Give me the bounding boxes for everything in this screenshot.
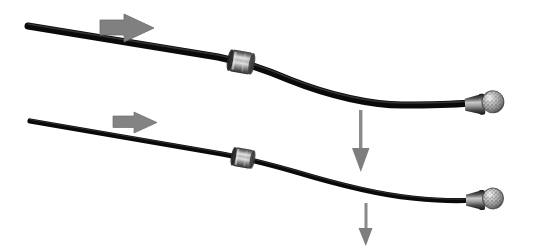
upper-bulb-tip: [465, 90, 505, 115]
lower-advance-arrow: [113, 112, 157, 133]
upper-device: [28, 14, 504, 172]
upper-sleeve-bead: [225, 49, 256, 76]
device-illustration: [0, 0, 536, 248]
figure-canvas: Schematic photograph showing two cathete…: [0, 0, 536, 248]
lower-sleeve-bead: [229, 147, 256, 170]
lower-deflect-arrow: [359, 203, 373, 246]
lower-device: [30, 112, 504, 246]
lower-bulb-tip: [466, 188, 504, 211]
upper-deflect-arrow: [352, 110, 370, 172]
